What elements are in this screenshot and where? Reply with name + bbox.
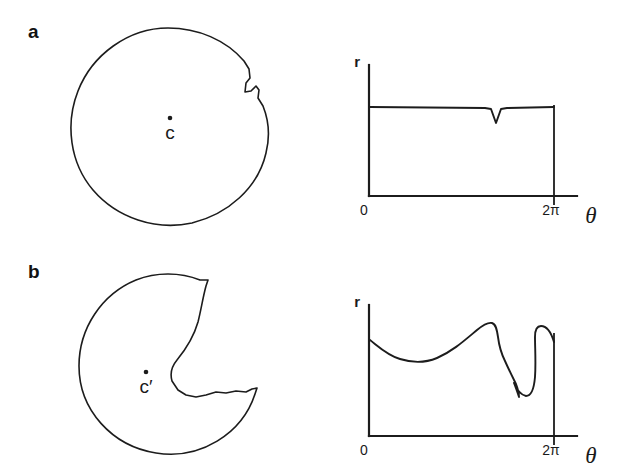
shape-a-center-label: c bbox=[165, 122, 175, 143]
plot-a-y-axis-label: r bbox=[354, 53, 360, 70]
plot-a-svg: r 0 2π θ bbox=[325, 45, 615, 230]
plot-b-curve bbox=[370, 323, 554, 397]
plot-b-origin-label: 0 bbox=[360, 442, 368, 458]
panel-label-b: b bbox=[28, 262, 40, 281]
shape-b-center-dot bbox=[144, 370, 149, 375]
figure-root: a c r 0 2π θ b bbox=[0, 0, 627, 471]
plot-b-svg: r 0 2π θ bbox=[325, 285, 615, 470]
plot-b-x-axis-label: θ bbox=[585, 443, 596, 468]
panel-label-a: a bbox=[28, 22, 39, 41]
shape-a-outline-svg: c bbox=[60, 20, 280, 235]
shape-b-center-label: c′ bbox=[139, 376, 153, 397]
plot-b-y-axis-label: r bbox=[354, 293, 360, 310]
plot-a-x-axis-label: θ bbox=[585, 203, 596, 228]
plot-a-origin-label: 0 bbox=[360, 202, 368, 218]
plot-a-xmax-label: 2π bbox=[542, 202, 560, 218]
shape-a-center-dot bbox=[168, 116, 173, 121]
panel-a: a c r 0 2π θ bbox=[0, 0, 627, 240]
panel-b: b c′ r 0 2π θ bbox=[0, 240, 627, 471]
shape-b-boundary-path bbox=[79, 274, 257, 454]
plot-b-xmax-label: 2π bbox=[542, 442, 560, 458]
plot-a-curve bbox=[370, 107, 554, 123]
shape-b-outline-svg: c′ bbox=[60, 250, 280, 465]
